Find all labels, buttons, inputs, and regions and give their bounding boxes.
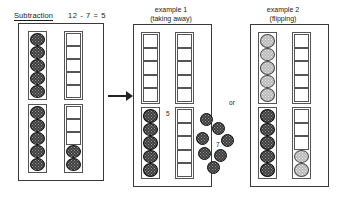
empty-square-icon <box>66 119 81 132</box>
ex2-right-column-group-1 <box>292 32 311 104</box>
dark-counter-icon <box>30 72 45 85</box>
empty-square-cell <box>177 34 192 48</box>
light-counter-icon <box>260 48 275 62</box>
empty-square-icon <box>177 34 192 48</box>
dark-counter-cell <box>30 158 45 171</box>
example-1-subheading: (taking away) <box>138 15 204 22</box>
empty-square-cell <box>177 163 192 177</box>
empty-square-icon <box>294 123 309 137</box>
light-counter-icon <box>294 163 309 177</box>
dark-counter-icon <box>143 123 158 137</box>
source-right-column-group-2 <box>64 104 83 173</box>
dark-counter-cell <box>30 59 45 72</box>
empty-square-icon <box>143 61 158 75</box>
dark-counter-cell <box>260 150 275 164</box>
empty-square-cell <box>294 88 309 102</box>
empty-square-cell <box>177 109 192 123</box>
dark-counter-cell <box>30 85 45 98</box>
light-counter-cell <box>260 48 275 62</box>
empty-square-cell <box>177 123 192 137</box>
example-2-panel <box>250 24 329 187</box>
example-2-heading: example 2 <box>248 6 318 13</box>
dark-counter-icon <box>260 109 275 123</box>
dark-counter-icon <box>66 145 81 158</box>
loose-counter-icon <box>198 147 211 160</box>
empty-square-icon <box>177 61 192 75</box>
empty-square-cell <box>66 119 81 132</box>
empty-square-cell <box>143 61 158 75</box>
empty-square-cell <box>294 75 309 89</box>
empty-square-icon <box>177 136 192 150</box>
empty-square-icon <box>66 33 81 46</box>
dark-counter-icon <box>260 163 275 177</box>
dark-counter-icon <box>143 150 158 164</box>
dark-counter-cell <box>143 150 158 164</box>
empty-square-icon <box>294 136 309 150</box>
source-right-column-group-1 <box>64 31 83 100</box>
ex2-right-column-group-2 <box>292 107 311 179</box>
empty-square-cell <box>177 136 192 150</box>
flow-arrow-shaft <box>108 95 128 97</box>
dark-counter-cell <box>260 109 275 123</box>
light-counter-cell <box>260 61 275 75</box>
empty-square-icon <box>177 150 192 164</box>
source-left-column-group-1 <box>28 31 47 100</box>
light-counter-cell <box>294 150 309 164</box>
dark-counter-cell <box>260 136 275 150</box>
empty-square-cell <box>177 61 192 75</box>
loose-counter-icon <box>207 161 220 174</box>
dark-counter-icon <box>30 46 45 59</box>
empty-square-cell <box>66 85 81 98</box>
result-count-label: 5 <box>166 110 170 117</box>
empty-square-icon <box>294 34 309 48</box>
dark-counter-cell <box>143 123 158 137</box>
empty-square-icon <box>143 75 158 89</box>
dark-counter-icon <box>30 59 45 72</box>
dark-counter-icon <box>30 119 45 132</box>
loose-counter-icon <box>221 134 234 147</box>
dark-counter-cell <box>30 145 45 158</box>
empty-square-cell <box>66 106 81 119</box>
ex2-left-column-group-2 <box>258 107 277 179</box>
empty-square-icon <box>294 61 309 75</box>
light-counter-cell <box>294 163 309 177</box>
light-counter-icon <box>260 34 275 48</box>
dark-counter-icon <box>143 109 158 123</box>
light-counter-icon <box>260 75 275 89</box>
dark-counter-cell <box>30 46 45 59</box>
light-counter-cell <box>260 88 275 102</box>
empty-square-cell <box>294 61 309 75</box>
dark-counter-icon <box>30 33 45 46</box>
removed-count-label: 7 <box>216 141 220 148</box>
empty-square-icon <box>177 109 192 123</box>
dark-counter-cell <box>260 163 275 177</box>
empty-square-cell <box>143 88 158 102</box>
dark-counter-icon <box>30 145 45 158</box>
worksheet-canvas: Subtraction 12 - 7 = 5 example 1 (taking… <box>0 0 343 201</box>
empty-square-cell <box>66 132 81 145</box>
empty-square-cell <box>177 150 192 164</box>
dark-counter-cell <box>143 109 158 123</box>
empty-square-icon <box>143 34 158 48</box>
dark-counter-cell <box>30 132 45 145</box>
dark-counter-icon <box>30 158 45 171</box>
dark-counter-icon <box>66 158 81 171</box>
empty-square-cell <box>66 72 81 85</box>
empty-square-cell <box>177 75 192 89</box>
dark-counter-cell <box>30 33 45 46</box>
empty-square-cell <box>294 123 309 137</box>
empty-square-cell <box>177 48 192 62</box>
empty-square-icon <box>143 88 158 102</box>
dark-counter-cell <box>143 136 158 150</box>
dark-counter-icon <box>30 106 45 119</box>
empty-square-icon <box>177 75 192 89</box>
dark-counter-icon <box>30 132 45 145</box>
empty-square-cell <box>66 33 81 46</box>
empty-square-icon <box>177 163 192 177</box>
empty-square-icon <box>66 132 81 145</box>
dark-counter-icon <box>260 150 275 164</box>
starting-amount-panel <box>18 23 104 181</box>
empty-square-icon <box>66 85 81 98</box>
flow-arrow-head <box>126 91 133 101</box>
loose-counter-icon <box>212 122 225 135</box>
